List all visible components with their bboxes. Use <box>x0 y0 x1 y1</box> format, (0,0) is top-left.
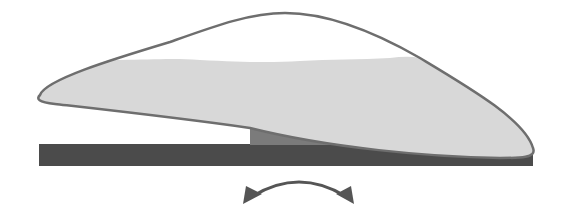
rocking-arrow <box>243 182 354 204</box>
arrow-head-left-icon <box>243 186 262 204</box>
arrow-arc <box>253 182 345 196</box>
cap-body-fill <box>0 0 561 223</box>
diagram-canvas: Cap-shaped body resting on a small pedes… <box>0 0 561 223</box>
diagram-svg <box>0 0 561 223</box>
arrow-head-right-icon <box>336 186 354 204</box>
